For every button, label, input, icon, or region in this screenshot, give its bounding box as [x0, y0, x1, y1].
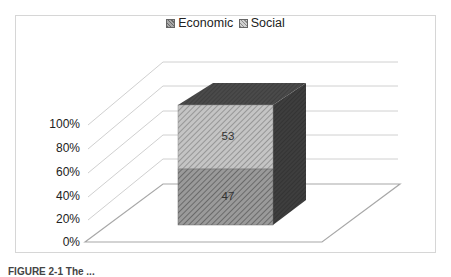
bar-side-face — [273, 83, 306, 225]
data-label-social: 53 — [213, 130, 243, 142]
data-label-economic: 47 — [213, 190, 243, 202]
figure-caption: FIGURE 2-1 The ... — [8, 266, 95, 277]
stacked-bar — [178, 83, 306, 225]
